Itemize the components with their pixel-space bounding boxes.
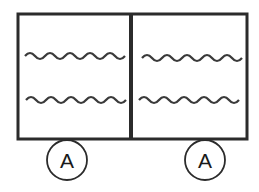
wavy-line: [142, 55, 242, 61]
wavy-line: [139, 97, 239, 103]
label-text: A: [60, 149, 74, 172]
label-text: A: [198, 149, 212, 172]
wavy-line: [25, 53, 125, 59]
label-left: A: [47, 140, 87, 180]
left-panel: [25, 53, 126, 103]
wavy-line: [26, 97, 126, 103]
diagram-canvas: A A: [0, 0, 259, 192]
right-panel: [139, 55, 242, 103]
label-right: A: [185, 140, 225, 180]
